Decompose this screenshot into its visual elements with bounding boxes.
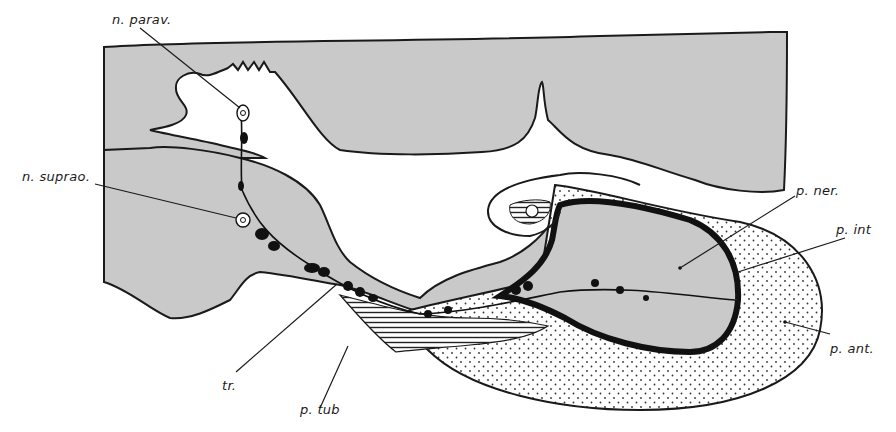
- label-p-int: p. int: [836, 222, 871, 237]
- label-p-tub: p. tub: [300, 402, 340, 417]
- recess-lumen: [526, 205, 538, 217]
- p-ant-point: [783, 320, 787, 324]
- supraoptic-cell: [236, 213, 250, 227]
- p-ner-point: [678, 266, 682, 270]
- label-p-ner: p. ner.: [796, 183, 839, 198]
- label-tr: tr.: [222, 378, 236, 393]
- label-n-suprao: n. suprao.: [22, 169, 90, 184]
- hypothalamo-hypophyseal-diagram: [0, 0, 896, 432]
- label-p-ant: p. ant.: [830, 341, 874, 356]
- label-n-parav: n. parav.: [112, 12, 172, 27]
- caption-fragment: [560, 420, 890, 432]
